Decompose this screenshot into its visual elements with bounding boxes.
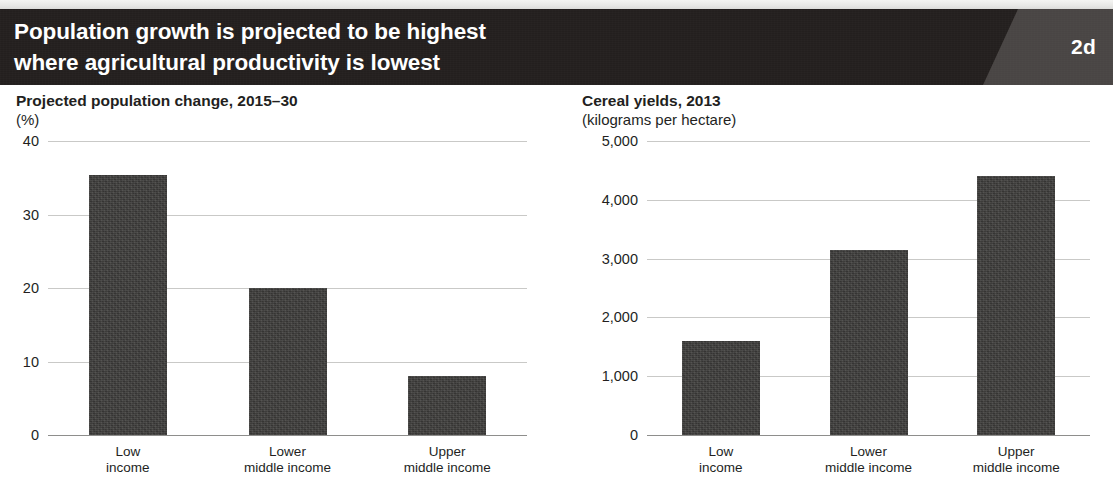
charts-area: Projected population change, 2015–30 (%)… (0, 85, 1113, 492)
gridline (48, 141, 527, 142)
x-axis-category-label: Lowincome (106, 444, 150, 476)
x-axis-category-label: Lowermiddle income (825, 444, 912, 476)
figure-header-banner: Population growth is projected to be hig… (0, 9, 1113, 85)
bar (830, 250, 908, 435)
x-label-line2: income (106, 460, 150, 476)
bar (408, 376, 486, 435)
y-axis-tick-label: 0 (630, 427, 638, 443)
y-axis-tick-label: 0 (31, 427, 39, 443)
x-label-line2: middle income (404, 460, 491, 476)
x-label-line1: Upper (429, 444, 466, 459)
y-axis-tick-label: 10 (23, 354, 39, 370)
bar (249, 288, 327, 435)
y-axis-tick-label: 40 (23, 133, 39, 149)
bar (89, 175, 167, 435)
bar (682, 341, 760, 435)
x-axis-category-label: Uppermiddle income (404, 444, 491, 476)
y-axis-tick-label: 3,000 (602, 251, 638, 267)
chart-title-left: Projected population change, 2015–30 (16, 91, 298, 110)
y-axis-tick-label: 1,000 (602, 368, 638, 384)
x-label-line1: Upper (998, 444, 1035, 459)
plot-area-left: 010203040LowincomeLowermiddle incomeUppe… (48, 141, 527, 435)
y-axis-tick-label: 2,000 (602, 309, 638, 325)
x-axis-category-label: Lowincome (699, 444, 743, 476)
x-label-line1: Low (708, 444, 733, 459)
bar (977, 176, 1055, 435)
x-label-line2: middle income (973, 460, 1060, 476)
gridline (647, 141, 1090, 142)
plot-area-right: 01,0002,0003,0004,0005,000LowincomeLower… (647, 141, 1090, 435)
x-axis-category-label: Lowermiddle income (244, 444, 331, 476)
x-label-line1: Lower (850, 444, 887, 459)
chart-title-right: Cereal yields, 2013 (582, 91, 721, 110)
page-top-edge (0, 0, 1113, 9)
chart-panel-projected-population-change: Projected population change, 2015–30 (%)… (0, 85, 556, 492)
x-axis-category-label: Uppermiddle income (973, 444, 1060, 476)
x-label-line1: Low (115, 444, 140, 459)
figure-title-line2: where agricultural productivity is lowes… (14, 47, 874, 78)
axis-baseline (647, 435, 1090, 436)
x-label-line2: middle income (825, 460, 912, 476)
y-axis-tick-label: 20 (23, 280, 39, 296)
y-axis-tick-label: 4,000 (602, 192, 638, 208)
y-axis-tick-label: 5,000 (602, 133, 638, 149)
chart-subtitle-left: (%) (16, 110, 39, 129)
x-label-line2: income (699, 460, 743, 476)
figure-number-badge: 2d (1071, 35, 1096, 59)
y-axis-tick-label: 30 (23, 207, 39, 223)
figure-root: Population growth is projected to be hig… (0, 0, 1113, 492)
figure-title-line1: Population growth is projected to be hig… (14, 19, 486, 44)
x-label-line2: middle income (244, 460, 331, 476)
chart-subtitle-right: (kilograms per hectare) (582, 110, 736, 129)
x-label-line1: Lower (269, 444, 306, 459)
axis-baseline (48, 435, 527, 436)
figure-title: Population growth is projected to be hig… (14, 16, 874, 78)
chart-panel-cereal-yields: Cereal yields, 2013 (kilograms per hecta… (556, 85, 1113, 492)
